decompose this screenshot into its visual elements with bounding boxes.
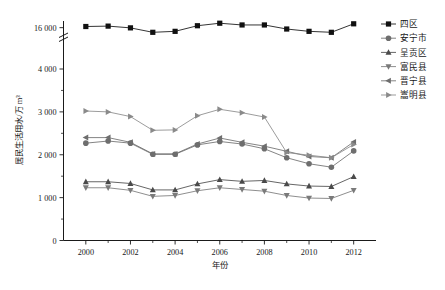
marker-circle (351, 148, 357, 154)
x-tick-label: 2012 (345, 248, 361, 257)
y-tick-label: 3 000 (38, 108, 56, 117)
marker-square (239, 22, 244, 27)
marker-square (351, 21, 356, 26)
y-tick-label: 16 000 (34, 24, 57, 33)
legend-item-label: 呈贡区 (400, 48, 427, 58)
legend-item-label: 嵩明县 (400, 90, 427, 100)
marker-square (262, 22, 267, 27)
marker-square (128, 25, 133, 30)
y-axis-title-text: 居民生活用水/万 m³ (14, 95, 24, 165)
marker-square (83, 24, 88, 29)
y-tick-label: 2 000 (38, 151, 56, 160)
marker-circle (386, 35, 392, 41)
marker-square (284, 26, 289, 31)
figure-background (0, 0, 445, 290)
marker-square (106, 24, 111, 29)
marker-circle (83, 140, 89, 146)
marker-square (150, 30, 155, 35)
x-tick-label: 2006 (212, 248, 228, 257)
x-tick-label: 2010 (301, 248, 317, 257)
marker-circle (329, 164, 335, 170)
legend-item-label: 富民县 (400, 61, 427, 72)
marker-circle (284, 155, 290, 161)
marker-square (195, 23, 200, 28)
x-tick-label: 2004 (167, 248, 183, 257)
line-chart-figure: 01 0002 0003 0004 00016 000 200020022004… (0, 0, 445, 290)
marker-square (386, 21, 391, 26)
x-tick-label: 2008 (256, 248, 272, 257)
y-tick-label: 4 000 (38, 65, 56, 74)
legend-item-label: 晋宁县 (400, 75, 427, 86)
marker-square (329, 30, 334, 35)
y-axis-title: 居民生活用水/万 m³ (14, 95, 24, 165)
marker-square (217, 21, 222, 26)
x-axis-title-text: 年份 (212, 260, 229, 270)
legend-item-label: 四区 (400, 19, 418, 29)
marker-circle (306, 161, 312, 167)
y-tick-label: 1 000 (38, 194, 56, 203)
x-tick-label: 2000 (78, 248, 94, 257)
legend-item-label: 安宁市 (400, 32, 427, 43)
marker-square (306, 29, 311, 34)
marker-square (173, 29, 178, 34)
y-tick-label: 0 (52, 237, 56, 246)
x-tick-label: 2002 (122, 248, 138, 257)
